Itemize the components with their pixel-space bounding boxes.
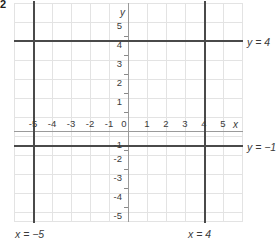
y-tick-label: -4: [102, 192, 122, 202]
line-x-equals-negative-5: [33, 1, 35, 223]
gridline-vertical: [242, 3, 243, 222]
tick-y: [124, 74, 128, 75]
tick-y: [124, 207, 128, 208]
line-y-equals-negative-1: [14, 145, 243, 147]
gridline-vertical: [90, 3, 91, 222]
x-tick-label: -5: [24, 119, 42, 129]
x-tick-label: 5: [214, 119, 232, 129]
y-tick-label: -5: [102, 211, 122, 221]
tick-y: [124, 93, 128, 94]
y-tick-label: -1: [102, 140, 122, 150]
x-tick-label: -4: [43, 119, 61, 129]
equation-label-y-equals-negative-1: y = −1: [247, 142, 276, 153]
y-tick-label: -2: [102, 154, 122, 164]
gridline-vertical: [109, 3, 110, 222]
gridline-vertical: [223, 3, 224, 222]
gridline-vertical: [14, 3, 15, 222]
tick-y: [124, 150, 128, 151]
problem-number: 2: [0, 0, 6, 10]
gridline-vertical: [52, 3, 53, 222]
x-tick-label: 4: [195, 119, 213, 129]
gridline-vertical: [71, 3, 72, 222]
gridline-vertical: [147, 3, 148, 222]
tick-y: [124, 112, 128, 113]
line-x-equals-4: [204, 1, 206, 223]
equation-label-x-equals-negative-5: x = −5: [15, 229, 44, 240]
y-tick-label: 5: [102, 21, 122, 31]
line-y-equals-4: [14, 40, 243, 42]
tick-y: [124, 188, 128, 189]
x-tick-label: -1: [100, 119, 118, 129]
y-tick-label: 1: [102, 97, 122, 107]
x-origin-label: 0: [117, 119, 131, 129]
y-axis-label: y: [120, 8, 125, 18]
equation-label-y-equals-4: y = 4: [247, 37, 270, 48]
y-tick-label: 2: [102, 78, 122, 88]
y-tick-label: 4: [102, 40, 122, 50]
y-tick-label: 3: [102, 59, 122, 69]
tick-y: [124, 55, 128, 56]
coordinate-plane: -5 -4 -3 -2 -1 0 1 2 3 4 5 5 4 3 2 1 -1 …: [14, 3, 243, 222]
x-axis-label: x: [233, 120, 238, 130]
gridline-vertical: [185, 3, 186, 222]
x-tick-label: 1: [138, 119, 156, 129]
x-tick-label: -3: [62, 119, 80, 129]
tick-y: [124, 36, 128, 37]
y-tick-label: -3: [102, 173, 122, 183]
x-tick-label: 2: [157, 119, 175, 129]
tick-y: [124, 169, 128, 170]
x-tick-label: -2: [81, 119, 99, 129]
y-axis: [128, 3, 129, 222]
x-tick-label: 3: [176, 119, 194, 129]
gridline-vertical: [166, 3, 167, 222]
equation-label-x-equals-4: x = 4: [188, 229, 211, 240]
